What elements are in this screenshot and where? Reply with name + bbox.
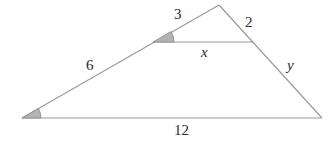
right-side	[219, 5, 322, 118]
label-lower-left-side: 6	[86, 57, 94, 73]
triangle-diagram: 3 2 6 y x 12	[0, 0, 334, 141]
label-inner-segment: x	[200, 44, 208, 60]
left-side	[22, 5, 219, 118]
bottom-left-angle-mark	[22, 109, 41, 119]
label-upper-left-side: 3	[174, 6, 182, 22]
label-upper-right-side: 2	[245, 14, 253, 30]
inner-angle-mark	[153, 32, 174, 43]
label-lower-right-side: y	[285, 57, 294, 73]
label-base: 12	[174, 122, 189, 138]
